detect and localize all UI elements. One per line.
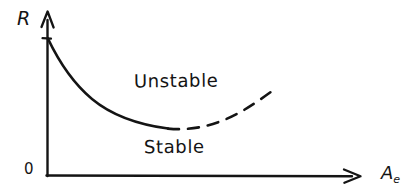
y-axis-label: R: [17, 7, 30, 29]
region-label-stable: Stable: [144, 136, 205, 157]
origin-label: 0: [24, 160, 34, 178]
x-axis-label-subscript: e: [393, 173, 400, 186]
x-axis-line: [47, 176, 353, 177]
x-axis-label-base: A: [381, 162, 393, 183]
region-label-unstable: Unstable: [134, 70, 219, 92]
x-axis-label: Ae: [381, 162, 400, 186]
unstable-branch-curve: [168, 88, 277, 130]
sketch-canvas: [0, 0, 419, 194]
sketch-figure: R 0 Ae Unstable Stable: [0, 0, 419, 194]
